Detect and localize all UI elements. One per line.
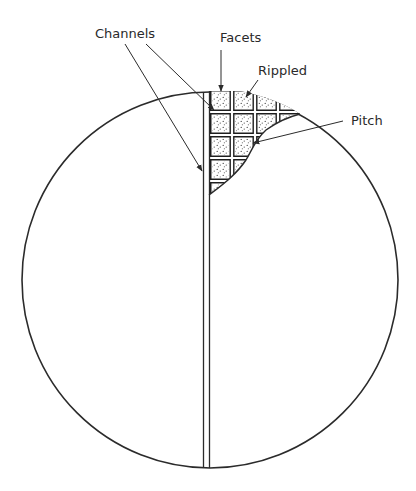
lap-diagram: Channels Facets Rippled Pitch	[0, 0, 416, 491]
label-pitch: Pitch	[351, 113, 383, 128]
pitch-region	[205, 85, 315, 205]
label-facets: Facets	[220, 30, 261, 45]
label-rippled: Rippled	[258, 63, 307, 78]
label-channels: Channels	[95, 26, 155, 41]
